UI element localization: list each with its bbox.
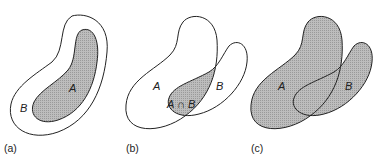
label-a: A: [152, 80, 160, 92]
panel-c: A B (c): [251, 16, 372, 154]
caption-c: (c): [251, 142, 263, 154]
label-b: B: [345, 80, 352, 92]
label-b: B: [216, 80, 223, 92]
caption-b: (b): [126, 142, 139, 154]
panel-a: A B (a): [4, 15, 107, 154]
label-b: B: [20, 102, 27, 114]
venn-figure: A B (a) A B A ∩ B (b) A B (c): [0, 0, 383, 160]
set-a-outline: [126, 16, 217, 128]
caption-a: (a): [4, 142, 17, 154]
panel-b: A B A ∩ B (b): [126, 16, 247, 154]
label-a: A: [277, 80, 285, 92]
label-intersection: A ∩ B: [166, 98, 195, 110]
label-a: A: [68, 82, 76, 94]
